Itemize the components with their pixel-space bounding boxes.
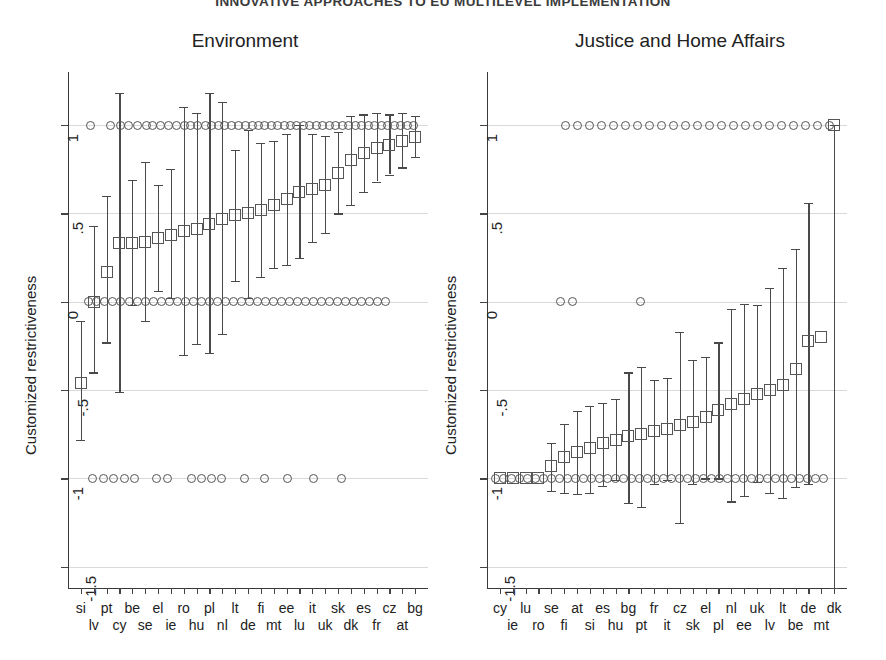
mean-square-marker: [725, 398, 737, 410]
x-tick-label-cz: cz: [376, 600, 402, 616]
whisker-cap-lower: [372, 182, 381, 183]
observation-dot-1: [561, 121, 570, 130]
mean-square-marker: [751, 388, 763, 400]
observation-dot-1: [585, 121, 594, 130]
mean-square-marker: [216, 213, 228, 225]
whisker-cap-upper: [192, 113, 201, 114]
observation-dot-neg1: [187, 474, 196, 483]
x-tick-label-pl: pl: [196, 600, 222, 616]
mean-square-marker: [203, 218, 215, 230]
y-axis-label-environment: Customized restrictiveness: [22, 276, 39, 455]
mean-square-marker: [597, 437, 609, 449]
x-tick-label-dk: dk: [338, 617, 364, 633]
whisker-cap-upper: [560, 424, 569, 425]
x-tick-label-lu: lu: [286, 617, 312, 633]
y-tick-mark: [61, 302, 68, 303]
x-tick-mark: [389, 588, 390, 594]
whisker-cap-upper: [714, 342, 723, 343]
x-tick-label-cy: cy: [487, 600, 513, 616]
whisker-cap-lower: [231, 281, 240, 282]
whisker-cap-upper: [688, 360, 697, 361]
mean-square-marker: [306, 183, 318, 195]
whisker-cap-upper: [663, 378, 672, 379]
whisker-cap-upper: [76, 321, 85, 322]
y-tick-mark: [480, 567, 487, 568]
gridline-y-.5: [487, 213, 847, 214]
x-tick-label-uk: uk: [312, 617, 338, 633]
y-tick-label: -1.5: [82, 576, 99, 602]
x-tick-mark: [377, 588, 378, 594]
whisker-cap-lower: [547, 491, 556, 492]
observation-dot-1: [609, 121, 618, 130]
x-tick-mark: [81, 588, 82, 594]
whisker-cap-upper: [231, 150, 240, 151]
x-tick-mark: [757, 588, 758, 594]
observation-dot-0: [556, 297, 565, 306]
observation-dot-1: [124, 121, 133, 130]
observation-dot-1: [741, 121, 750, 130]
observation-dot-neg1: [337, 474, 346, 483]
whisker-cap-lower: [205, 353, 214, 354]
x-tick-mark: [248, 588, 249, 594]
x-tick-label-lt: lt: [770, 600, 796, 616]
x-tick-label-ee: ee: [274, 600, 300, 616]
panel-title-justice-home-affairs: Justice and Home Affairs: [480, 30, 880, 52]
x-tick-label-be: be: [119, 600, 145, 616]
x-tick-mark: [577, 588, 578, 594]
mean-square-marker: [584, 442, 596, 454]
mean-square-marker: [293, 186, 305, 198]
x-tick-mark: [261, 588, 262, 594]
whisker-cap-upper: [269, 141, 278, 142]
mean-square-marker: [332, 167, 344, 179]
x-tick-mark: [325, 588, 326, 594]
observation-dot-neg1: [197, 474, 206, 483]
x-tick-label-lu: lu: [513, 600, 539, 616]
x-tick-mark: [338, 588, 339, 594]
observation-dot-0: [636, 297, 645, 306]
observation-dot-1: [789, 121, 798, 130]
x-tick-mark: [287, 588, 288, 594]
y-tick-label: -.5: [493, 399, 510, 417]
whisker-cap-upper: [166, 169, 175, 170]
whisker-cap-lower: [560, 493, 569, 494]
x-tick-label-dk: dk: [821, 600, 847, 616]
observation-dot-1: [753, 121, 762, 130]
whisker-cap-lower: [192, 344, 201, 345]
whisker-cap-upper: [334, 132, 343, 133]
x-tick-mark: [209, 588, 210, 594]
y-tick-mark: [61, 213, 68, 214]
whisker-cap-upper: [128, 180, 137, 181]
observation-dot-1: [409, 121, 418, 130]
whisker-cap-upper: [321, 136, 330, 137]
whisker-cap-lower: [791, 487, 800, 488]
y-tick-label: -1: [488, 487, 505, 500]
observation-dot-1: [669, 121, 678, 130]
x-tick-label-el: el: [145, 600, 171, 616]
x-tick-label-pt: pt: [628, 617, 654, 633]
x-tick-mark: [158, 588, 159, 594]
observation-dot-0: [381, 297, 390, 306]
y-tick-label: -1.5: [501, 576, 518, 602]
whisker-cap-lower: [282, 265, 291, 266]
whisker-cap-upper: [218, 102, 227, 103]
x-tick-label-es: es: [590, 600, 616, 616]
x-tick-label-hu: hu: [603, 617, 629, 633]
observation-dot-0: [568, 297, 577, 306]
whisker-cap-upper: [115, 93, 124, 94]
x-tick-mark: [590, 588, 591, 594]
whisker-cap-lower: [76, 440, 85, 441]
whisker-cap-lower: [778, 498, 787, 499]
whisker-cap-upper: [282, 134, 291, 135]
mean-square-marker: [281, 193, 293, 205]
observation-dot-0: [116, 297, 125, 306]
x-tick-mark: [628, 588, 629, 594]
x-tick-mark: [107, 588, 108, 594]
y-tick-label: 1: [64, 134, 81, 142]
mean-square-marker: [712, 404, 724, 416]
x-tick-mark: [796, 588, 797, 594]
running-head: INNOVATIVE APPROACHES TO EU MULTILEVEL I…: [0, 0, 886, 8]
whisker-cap-lower: [269, 268, 278, 269]
whisker-cap-upper: [346, 116, 355, 117]
mean-square-marker: [777, 379, 789, 391]
x-tick-label-sk: sk: [680, 617, 706, 633]
